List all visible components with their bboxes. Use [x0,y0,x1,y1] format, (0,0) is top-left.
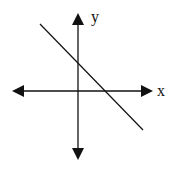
x-axis-left-arrow-icon [12,85,24,97]
x-axis-label: x [157,82,165,99]
x-axis-right-arrow-icon [141,85,153,97]
y-axis [72,13,84,160]
y-axis-label: y [91,8,99,26]
x-axis [12,85,153,97]
y-axis-down-arrow-icon [72,148,84,160]
coordinate-plane: y x [0,0,174,173]
plotted-line [40,24,143,130]
y-axis-up-arrow-icon [72,13,84,25]
